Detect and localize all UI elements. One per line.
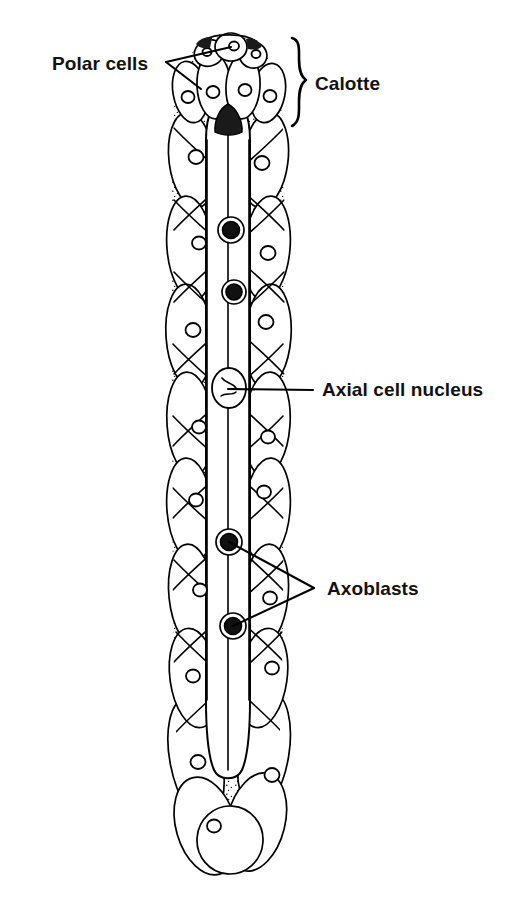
- calotte-nucleus: [182, 91, 195, 103]
- peripheral-nucleus: [189, 494, 203, 507]
- peripheral-nucleus: [255, 156, 270, 170]
- peripheral-nucleus: [261, 431, 275, 444]
- peripheral-nucleus: [265, 662, 279, 675]
- figure-root: Polar cells Calotte Axial cell nucleus A…: [0, 0, 530, 897]
- axial-cell: [206, 96, 250, 778]
- peripheral-nucleus: [192, 421, 206, 434]
- calotte-nucleus: [207, 86, 220, 98]
- peripheral-nucleus: [193, 584, 207, 597]
- peripheral-nucleus: [186, 323, 201, 337]
- peripheral-nucleus: [189, 150, 204, 164]
- calotte-nucleus: [264, 90, 277, 102]
- calotte-nucleus: [239, 84, 252, 96]
- dicyemid-diagram: Polar cells Calotte Axial cell nucleus A…: [0, 0, 530, 897]
- peripheral-nucleus: [207, 820, 221, 833]
- peripheral-nucleus: [191, 755, 206, 769]
- polar-cells-label: Polar cells: [52, 53, 148, 74]
- peripheral-nucleus: [265, 768, 280, 782]
- peripheral-nucleus: [259, 315, 274, 329]
- peripheral-nucleus: [192, 237, 206, 250]
- peripheral-nucleus: [186, 670, 200, 683]
- peripheral-nucleus: [261, 246, 276, 260]
- axoblast: [222, 280, 246, 304]
- peripheral-nucleus: [263, 592, 277, 605]
- axial-cell-nucleus-leader: [228, 389, 313, 390]
- axoblast: [218, 217, 244, 243]
- axial-cell-nucleus-label: Axial cell nucleus: [322, 379, 483, 400]
- calotte-label: Calotte: [315, 73, 380, 94]
- polar-cell-nucleus: [252, 50, 261, 58]
- polar-cell-nucleus: [229, 42, 239, 51]
- peripheral-nucleus: [257, 486, 271, 499]
- axoblasts-label: Axoblasts: [327, 578, 419, 599]
- dicyemid-organism: [159, 28, 300, 884]
